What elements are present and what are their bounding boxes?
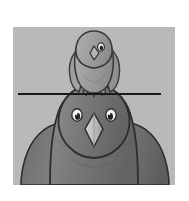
illustration-plate: Two birds with a horizontal line A small… bbox=[13, 27, 175, 185]
lower-bird-right-eye bbox=[106, 109, 116, 121]
upper-bird-eye bbox=[98, 43, 105, 51]
page-root: Two birds with a horizontal line A small… bbox=[0, 0, 189, 201]
lower-bird-left-eye bbox=[72, 109, 82, 121]
two-birds-illustration bbox=[13, 27, 175, 185]
